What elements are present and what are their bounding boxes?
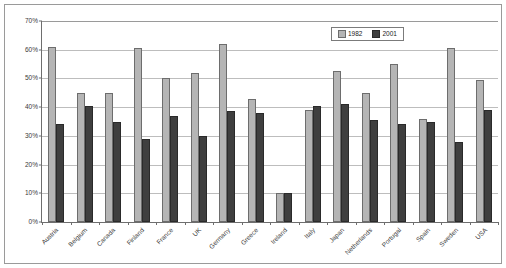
chart-legend: 1982 2001: [331, 27, 404, 41]
bar-group: [470, 21, 499, 222]
bar-1982-portugal: [390, 64, 398, 222]
x-axis-label-cell: Canada: [98, 225, 127, 268]
x-axis-label-cell: Italy: [298, 225, 327, 268]
bar-1982-germany: [219, 44, 227, 222]
x-axis-label-cell: Spain: [412, 225, 441, 268]
bar-2001-france: [170, 116, 178, 222]
bar-2001-netherlands: [370, 120, 378, 222]
bar-1982-spain: [419, 119, 427, 222]
x-axis-labels: AustriaBelgiumCanadaFinlandFranceUKGerma…: [41, 225, 498, 268]
x-axis-label-spain: Spain: [415, 227, 431, 243]
x-axis-label-belgium: Belgium: [67, 227, 88, 248]
bar-2001-sweden: [455, 142, 463, 222]
bar-1982-france: [162, 78, 170, 222]
y-axis-tick-label: 10%: [25, 190, 38, 197]
bar-2001-portugal: [398, 124, 406, 222]
legend-item-2001: 2001: [372, 30, 396, 38]
bar-group: [441, 21, 470, 222]
x-axis-label-italy: Italy: [304, 227, 317, 240]
x-axis-label-ireland: Ireland: [270, 227, 289, 246]
chart-frame: 0%10%20%30%40%50%60%70% AustriaBelgiumCa…: [4, 4, 502, 264]
x-axis-label-cell: France: [155, 225, 184, 268]
x-axis-label-cell: Sweden: [441, 225, 470, 268]
y-axis-tick-label: 0%: [29, 219, 38, 226]
x-axis-label-canada: Canada: [96, 227, 117, 248]
y-axis-tick-label: 70%: [25, 18, 38, 25]
bar-2001-japan: [341, 104, 349, 222]
bar-2001-greece: [256, 113, 264, 222]
bar-group: [42, 21, 71, 222]
bar-series-container: [42, 21, 498, 222]
bar-2001-usa: [484, 110, 492, 222]
x-axis-label-usa: USA: [474, 227, 488, 241]
legend-label-2001: 2001: [382, 31, 396, 38]
x-axis-tick-mark: [498, 222, 499, 225]
bar-1982-usa: [476, 80, 484, 222]
x-axis-label-cell: Ireland: [270, 225, 299, 268]
x-axis-label-cell: Greece: [241, 225, 270, 268]
bar-1982-austria: [48, 47, 56, 222]
y-axis-tick-label: 20%: [25, 161, 38, 168]
x-axis-label-portugal: Portugal: [381, 227, 403, 249]
bar-group: [156, 21, 185, 222]
y-axis-tick-label: 40%: [25, 104, 38, 111]
bar-group: [270, 21, 299, 222]
bar-2001-finland: [142, 139, 150, 222]
bar-2001-belgium: [85, 106, 93, 222]
x-axis-label-cell: Portugal: [384, 225, 413, 268]
x-axis-label-cell: Germany: [212, 225, 241, 268]
bar-group: [213, 21, 242, 222]
x-axis-label-cell: USA: [469, 225, 498, 268]
x-axis-label-sweden: Sweden: [439, 227, 460, 248]
bar-2001-canada: [113, 122, 121, 223]
x-axis-label-austria: Austria: [41, 227, 60, 246]
bar-2001-germany: [227, 111, 235, 222]
x-axis-label-cell: Belgium: [70, 225, 99, 268]
x-axis-label-france: France: [155, 227, 174, 246]
legend-label-1982: 1982: [348, 31, 362, 38]
x-axis-label-japan: Japan: [328, 227, 345, 244]
bar-1982-sweden: [447, 48, 455, 222]
bar-1982-greece: [248, 99, 256, 222]
y-axis-tick-label: 30%: [25, 133, 38, 140]
bar-group: [384, 21, 413, 222]
bar-1982-italy: [305, 110, 313, 222]
x-axis-label-cell: Austria: [41, 225, 70, 268]
y-axis-tick-label: 50%: [25, 75, 38, 82]
bar-group: [242, 21, 271, 222]
bar-1982-canada: [105, 93, 113, 222]
legend-swatch-2001-icon: [372, 30, 380, 38]
y-axis-tick-label: 60%: [25, 46, 38, 53]
plot-area: 0%10%20%30%40%50%60%70%: [41, 21, 498, 223]
bar-group: [299, 21, 328, 222]
x-axis-label-finland: Finland: [126, 227, 146, 247]
x-axis-label-cell: Finland: [127, 225, 156, 268]
bar-1982-belgium: [77, 93, 85, 222]
bar-group: [356, 21, 385, 222]
bar-1982-ireland: [276, 193, 284, 222]
bar-1982-netherlands: [362, 93, 370, 222]
legend-swatch-1982-icon: [338, 30, 346, 38]
bar-group: [128, 21, 157, 222]
bar-2001-italy: [313, 106, 321, 222]
bar-1982-japan: [333, 71, 341, 222]
x-axis-label-uk: UK: [192, 227, 203, 238]
bar-group: [185, 21, 214, 222]
bar-2001-austria: [56, 124, 64, 222]
legend-item-1982: 1982: [338, 30, 362, 38]
bar-group: [327, 21, 356, 222]
bar-group: [71, 21, 100, 222]
bar-2001-ireland: [284, 193, 292, 222]
bar-group: [99, 21, 128, 222]
bar-group: [413, 21, 442, 222]
bar-chart: 0%10%20%30%40%50%60%70% AustriaBelgiumCa…: [0, 0, 506, 268]
bar-2001-uk: [199, 136, 207, 222]
bar-1982-uk: [191, 73, 199, 222]
x-axis-label-greece: Greece: [240, 227, 260, 247]
bar-2001-spain: [427, 122, 435, 223]
x-axis-label-cell: Netherlands: [355, 225, 384, 268]
bar-1982-finland: [134, 48, 142, 222]
